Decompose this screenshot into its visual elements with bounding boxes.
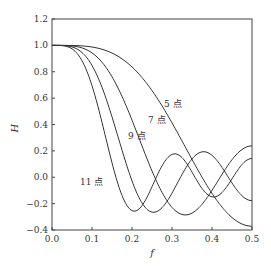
chart: 1.21.00.80.60.40.20.0−0.2−0.4 0.00.10.20… [0,0,271,270]
y-tick-label: 1.2 [34,14,48,24]
x-tick-label: 0.1 [85,234,99,244]
curve-label-7-point: 7 点 [148,115,166,125]
x-tick-label: 0.2 [125,234,139,244]
curve-label-9-point: 9 点 [128,131,146,141]
y-tick-label: 0.2 [34,146,48,156]
x-tick-label: 0.3 [165,234,180,244]
curves [52,45,252,226]
y-tick-label: −0.2 [26,199,48,209]
y-tick-label: 0.0 [34,172,49,182]
curve-5-point [52,45,252,226]
x-tick-label: 0.0 [45,234,60,244]
curve-7-point [52,45,252,215]
curve-label-11-point: 11 点 [80,177,103,187]
y-tick-label: 0.6 [34,93,49,103]
y-tick-label: 1.0 [34,40,49,50]
curve-label-5-point: 5 点 [164,99,182,109]
y-tick-label: 0.8 [34,67,49,77]
x-tick-label: 0.5 [245,234,260,244]
x-tick-label: 0.4 [205,234,220,244]
y-axis-ticks: 1.21.00.80.60.40.20.0−0.2−0.4 [26,14,55,235]
y-axis-label: H [9,123,20,133]
y-tick-label: 0.4 [34,120,49,130]
x-axis-label: f [149,247,156,258]
